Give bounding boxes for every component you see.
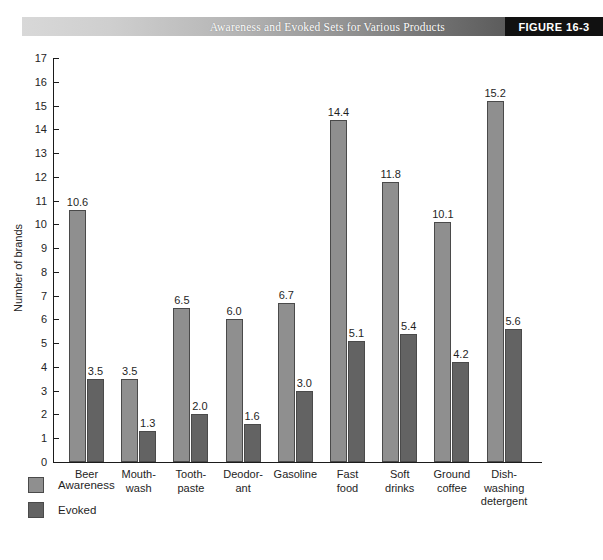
y-tick-label: 8	[41, 266, 47, 278]
awareness-swatch	[28, 477, 44, 493]
bar-evoked[interactable]: 5.6	[505, 329, 522, 462]
plot-area: 17161514131211109876543210 10.63.53.51.3…	[53, 58, 542, 462]
y-tick-mark	[53, 391, 59, 392]
y-tick-label: 4	[41, 361, 47, 373]
bar-value-label: 10.1	[432, 208, 453, 220]
y-axis-title: Number of brands	[12, 188, 24, 348]
bar-awareness[interactable]: 10.6	[69, 210, 86, 462]
y-tick-mark	[53, 462, 59, 463]
x-axis-label-line: washing	[462, 482, 546, 496]
y-tick-mark	[53, 438, 59, 439]
y-tick-mark	[53, 153, 59, 154]
bar-evoked[interactable]: 1.6	[244, 424, 261, 462]
bar-value-label: 15.2	[484, 87, 505, 99]
y-tick-label: 15	[35, 100, 47, 112]
bar-value-label: 11.8	[380, 168, 401, 180]
bar-awareness[interactable]: 11.8	[382, 182, 399, 462]
bar-value-label: 3.5	[88, 365, 103, 377]
bar-group: 10.63.5	[69, 58, 104, 462]
figure-number-label: FIGURE 16-3	[518, 21, 589, 33]
y-tick-label: 5	[41, 337, 47, 349]
x-axis-label-line: detergent	[462, 495, 546, 509]
figure-title: Awareness and Evoked Sets for Various Pr…	[210, 21, 445, 33]
bar-value-label: 5.6	[505, 315, 520, 327]
bar-awareness[interactable]: 6.5	[173, 308, 190, 462]
bar-awareness[interactable]: 10.1	[434, 222, 451, 462]
figure-number-block: FIGURE 16-3	[505, 17, 603, 36]
figure-banner: Awareness and Evoked Sets for Various Pr…	[22, 17, 603, 36]
bar-group: 11.85.4	[382, 58, 417, 462]
bar-value-label: 6.0	[226, 305, 241, 317]
y-tick-label: 1	[41, 432, 47, 444]
bar-value-label: 10.6	[67, 196, 88, 208]
y-axis-line	[53, 58, 54, 462]
y-tick-mark	[53, 58, 59, 59]
bar-group: 3.51.3	[121, 58, 156, 462]
legend-item[interactable]: Evoked	[28, 502, 115, 518]
chart-legend: AwarenessEvoked	[28, 477, 115, 527]
bar-value-label: 3.0	[297, 377, 312, 389]
bar-value-label: 14.4	[328, 106, 349, 118]
bar-group: 6.73.0	[278, 58, 313, 462]
evoked-swatch	[28, 502, 44, 518]
bar-evoked[interactable]: 5.4	[400, 334, 417, 462]
y-tick-mark	[53, 296, 59, 297]
bar-awareness[interactable]: 3.5	[121, 379, 138, 462]
bar-evoked[interactable]: 3.0	[296, 391, 313, 462]
bar-group: 14.45.1	[330, 58, 365, 462]
y-tick-mark	[53, 82, 59, 83]
bar-value-label: 3.5	[122, 365, 137, 377]
bar-group: 10.14.2	[434, 58, 469, 462]
y-tick-label: 12	[35, 171, 47, 183]
y-tick-label: 17	[35, 52, 47, 64]
y-tick-mark	[53, 201, 59, 202]
y-tick-mark	[53, 272, 59, 273]
y-tick-label: 14	[35, 123, 47, 135]
x-axis-line	[53, 462, 542, 463]
y-tick-mark	[53, 224, 59, 225]
bar-awareness[interactable]: 6.7	[278, 303, 295, 462]
bar-awareness[interactable]: 14.4	[330, 120, 347, 462]
banner-gradient-bar: Awareness and Evoked Sets for Various Pr…	[22, 17, 505, 36]
y-tick-label: 16	[35, 76, 47, 88]
y-tick-label: 6	[41, 313, 47, 325]
bar-value-label: 6.7	[279, 289, 294, 301]
x-axis-label-line: Dish-	[462, 468, 546, 482]
y-tick-mark	[53, 129, 59, 130]
bar-evoked[interactable]: 4.2	[452, 362, 469, 462]
y-tick-mark	[53, 343, 59, 344]
bar-awareness[interactable]: 15.2	[487, 101, 504, 462]
bar-evoked[interactable]: 1.3	[139, 431, 156, 462]
legend-label: Awareness	[58, 479, 115, 491]
y-tick-label: 11	[36, 195, 47, 207]
bar-awareness[interactable]: 6.0	[226, 319, 243, 462]
bar-evoked[interactable]: 3.5	[87, 379, 104, 462]
y-tick-label: 2	[41, 408, 47, 420]
bar-evoked[interactable]: 2.0	[191, 414, 208, 462]
bar-group: 6.52.0	[173, 58, 208, 462]
bar-value-label: 2.0	[192, 400, 207, 412]
bar-group: 15.25.6	[487, 58, 522, 462]
y-tick-mark	[53, 319, 59, 320]
y-tick-label: 7	[41, 290, 47, 302]
y-tick-label: 10	[35, 218, 47, 230]
y-tick-label: 9	[41, 242, 47, 254]
bar-group: 6.01.6	[226, 58, 261, 462]
x-axis-label-line: ant	[201, 482, 285, 496]
y-tick-label: 13	[35, 147, 47, 159]
y-tick-mark	[53, 106, 59, 107]
bar-value-label: 5.1	[349, 327, 364, 339]
y-tick-label: 0	[41, 456, 47, 468]
x-axis-label: Dish-washingdetergent	[462, 468, 546, 509]
bar-value-label: 1.3	[140, 417, 155, 429]
legend-label: Evoked	[58, 504, 96, 516]
bar-evoked[interactable]: 5.1	[348, 341, 365, 462]
y-tick-mark	[53, 177, 59, 178]
bar-value-label: 4.2	[453, 348, 468, 360]
legend-item[interactable]: Awareness	[28, 477, 115, 493]
y-tick-mark	[53, 414, 59, 415]
y-tick-mark	[53, 248, 59, 249]
y-tick-mark	[53, 367, 59, 368]
y-tick-label: 3	[41, 385, 47, 397]
bar-value-label: 1.6	[244, 410, 259, 422]
